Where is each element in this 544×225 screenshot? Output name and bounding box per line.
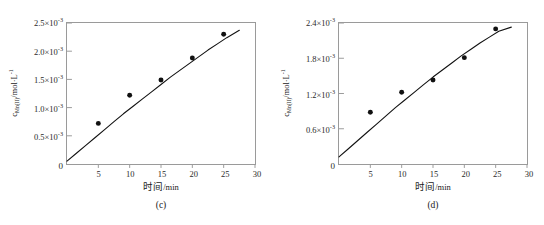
y-tick-label: 0 <box>59 162 64 171</box>
x-tick-label: 10 <box>398 170 407 179</box>
x-axis-title-text: 时间 <box>143 182 163 192</box>
data-point-marker <box>493 26 498 31</box>
figure-container: 00.5×10-31.0×10-31.5×10-32.0×10-32.5×10-… <box>0 0 544 225</box>
data-point-marker <box>221 32 226 37</box>
panel-label-d: (d) <box>338 201 528 211</box>
x-axis-title-text: 时间 <box>415 182 435 192</box>
plot-svg-c <box>67 23 255 164</box>
y-tick-label: 0.6×10-3 <box>306 126 335 135</box>
data-point-marker <box>462 55 467 60</box>
x-axis-unit: /min <box>163 182 179 192</box>
y-axis-title-d: cMn(II)/mol·L-1 <box>282 69 291 117</box>
y-axis-title-c: cMn(II)/mol·L-1 <box>10 69 19 117</box>
y-tick-label: 0 <box>331 162 336 171</box>
y-tick-label: 0.5×10-3 <box>34 133 63 142</box>
y-tick-label: 2.0×10-3 <box>34 47 63 56</box>
x-tick-label: 25 <box>493 170 502 179</box>
chart-panel-c: 00.5×10-31.0×10-31.5×10-32.0×10-32.5×10-… <box>0 0 272 225</box>
x-tick-label: 30 <box>253 170 262 179</box>
plot-svg-d <box>339 23 527 164</box>
data-point-marker <box>127 93 132 98</box>
x-tick-label: 30 <box>525 170 534 179</box>
x-tick-label: 25 <box>221 170 230 179</box>
x-tick-label: 20 <box>189 170 198 179</box>
data-point-marker <box>399 90 404 95</box>
y-tick-label: 2.4×10-3 <box>306 19 335 28</box>
plot-area-c: 00.5×10-31.0×10-31.5×10-32.0×10-32.5×10-… <box>66 22 256 165</box>
y-tick-label: 2.5×10-3 <box>34 19 63 28</box>
x-axis-title-d: 时间/min <box>338 183 528 193</box>
x-tick-label: 10 <box>126 170 135 179</box>
y-tick-label: 1.5×10-3 <box>34 76 63 85</box>
fit-curve <box>67 30 239 161</box>
data-point-marker <box>368 110 373 115</box>
x-tick-label: 5 <box>369 170 373 179</box>
fit-curve <box>339 27 511 157</box>
x-axis-unit: /min <box>435 182 451 192</box>
y-tick-label: 1.2×10-3 <box>306 90 335 99</box>
data-point-marker <box>96 121 101 126</box>
x-tick-label: 20 <box>461 170 470 179</box>
chart-panel-d: 00.6×10-31.2×10-31.8×10-32.4×10-35101520… <box>272 0 544 225</box>
y-tick-label: 1.8×10-3 <box>306 55 335 64</box>
plot-area-d: 00.6×10-31.2×10-31.8×10-32.4×10-35101520… <box>338 22 528 165</box>
x-tick-label: 15 <box>158 170 167 179</box>
y-tick-label: 1.0×10-3 <box>34 105 63 114</box>
data-point-marker <box>190 55 195 60</box>
x-tick-label: 15 <box>430 170 439 179</box>
panel-label-c: (c) <box>66 201 256 211</box>
data-point-marker <box>159 77 164 82</box>
x-axis-title-c: 时间/min <box>66 183 256 193</box>
data-point-marker <box>431 78 436 83</box>
x-tick-label: 5 <box>97 170 101 179</box>
